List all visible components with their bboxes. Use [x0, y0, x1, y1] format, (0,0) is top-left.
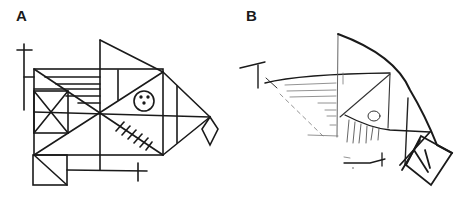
- figure-canvas: [0, 0, 467, 198]
- panel-a-drawing: [17, 40, 218, 185]
- panel-b-drawing: [240, 34, 452, 185]
